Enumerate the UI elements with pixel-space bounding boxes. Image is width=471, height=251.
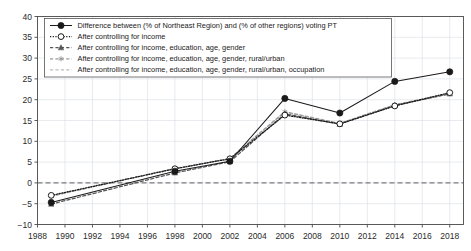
x-tick-label: 2010 xyxy=(330,231,349,241)
x-tick-label: 2008 xyxy=(303,231,322,241)
legend-label: After controlling for income, education,… xyxy=(78,54,285,63)
series-line xyxy=(51,93,450,196)
x-tick-label: 1998 xyxy=(165,231,184,241)
legend-label: After controlling for income xyxy=(78,32,166,41)
data-point-marker xyxy=(48,199,54,205)
x-tick-label: 2012 xyxy=(358,231,377,241)
y-tick-label: 30 xyxy=(23,53,33,63)
y-tick-label: −5 xyxy=(22,199,32,209)
x-tick-label: 1988 xyxy=(28,231,47,241)
data-point-marker xyxy=(337,110,343,116)
data-point-marker xyxy=(447,90,453,96)
legend-label: Difference between (% of Northeast Regio… xyxy=(78,21,338,30)
legend-label: After controlling for income, education,… xyxy=(78,65,325,74)
x-tick-label: 2002 xyxy=(220,231,239,241)
x-tick-label: 2000 xyxy=(193,231,212,241)
chart-container: −10−50510152025303540 198819901992199419… xyxy=(0,0,471,251)
x-tick-label: 1990 xyxy=(56,231,75,241)
y-tick-label: 15 xyxy=(23,116,33,126)
data-series-group xyxy=(48,69,453,207)
x-tick-label: 2014 xyxy=(385,231,404,241)
series-1 xyxy=(48,69,453,206)
line-chart: −10−50510152025303540 198819901992199419… xyxy=(0,0,471,251)
y-tick-label: 25 xyxy=(23,74,33,84)
y-tick-label: −10 xyxy=(18,220,33,230)
y-axis-ticks: −10−50510152025303540 xyxy=(18,12,38,230)
x-tick-label: 2016 xyxy=(413,231,432,241)
data-point-marker xyxy=(392,78,398,84)
data-point-marker xyxy=(447,69,453,75)
y-tick-label: 5 xyxy=(27,157,32,167)
x-tick-label: 2018 xyxy=(440,231,459,241)
y-tick-label: 0 xyxy=(27,178,32,188)
x-tick-label: 1994 xyxy=(110,231,129,241)
y-tick-label: 40 xyxy=(23,12,33,22)
legend-label: After controlling for income, education,… xyxy=(78,43,246,52)
data-point-marker xyxy=(282,95,288,101)
data-point-marker xyxy=(392,103,398,109)
data-point-marker xyxy=(282,112,288,118)
x-tick-label: 2006 xyxy=(275,231,294,241)
data-point-marker xyxy=(227,158,233,164)
y-tick-label: 35 xyxy=(23,32,33,42)
y-tick-label: 20 xyxy=(23,95,33,105)
legend-marker-swatch xyxy=(58,22,64,28)
chart-legend: Difference between (% of Northeast Regio… xyxy=(45,19,392,78)
series-5 xyxy=(51,93,450,195)
legend-marker-swatch xyxy=(58,34,64,40)
x-tick-label: 1992 xyxy=(83,231,102,241)
x-tick-label: 2004 xyxy=(248,231,267,241)
x-tick-label: 1996 xyxy=(138,231,157,241)
legend-item-3[interactable]: After controlling for income, education,… xyxy=(50,43,246,52)
y-tick-label: 10 xyxy=(23,136,33,146)
data-point-marker xyxy=(337,121,343,127)
x-axis-ticks: 1988199019921994199619982000200220042006… xyxy=(28,225,459,241)
legend-item-5[interactable]: After controlling for income, education,… xyxy=(50,65,324,74)
data-point-marker xyxy=(48,192,54,198)
series-3 xyxy=(48,91,452,206)
legend-item-1[interactable]: Difference between (% of Northeast Regio… xyxy=(50,21,337,30)
legend-item-4[interactable]: After controlling for income, education,… xyxy=(50,54,285,63)
series-line xyxy=(51,93,450,195)
data-point-marker xyxy=(172,168,178,174)
